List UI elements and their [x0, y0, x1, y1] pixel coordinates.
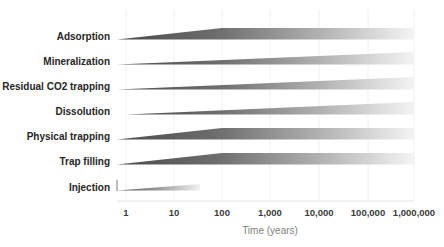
row-label-mineralization: Mineralization: [43, 56, 110, 67]
row-label-dissolution: Dissolution: [56, 106, 110, 117]
x-tick-1000: 1,000: [258, 207, 282, 218]
row-label-physical-trapping: Physical trapping: [27, 131, 110, 142]
bar-physical-trapping: [117, 128, 414, 140]
bar-injection: [117, 184, 200, 191]
row-label-residual-co2-trapping: Residual CO2 trapping: [2, 81, 110, 92]
bar-trap-filling: [117, 153, 414, 165]
x-tick-labels: 1 10 100 1,000 10,000 100,000 1,000,000: [123, 207, 435, 218]
x-tick-10: 10: [169, 207, 180, 218]
x-tick-1: 1: [123, 207, 129, 218]
trapping-mechanisms-chart: Adsorption Mineralization Residual CO2 t…: [0, 0, 444, 247]
x-tick-1000000: 1,000,000: [393, 207, 435, 218]
bars: [117, 28, 414, 191]
bar-residual-co2-trapping: [117, 77, 414, 90]
x-tick-10000: 10,000: [304, 207, 333, 218]
row-label-adsorption: Adsorption: [57, 31, 110, 42]
bar-mineralization: [117, 52, 414, 65]
x-tick-100000: 100,000: [351, 207, 385, 218]
row-labels: Adsorption Mineralization Residual CO2 t…: [2, 31, 110, 193]
row-label-trap-filling: Trap filling: [59, 156, 110, 167]
bar-adsorption: [117, 28, 414, 40]
x-tick-100: 100: [214, 207, 230, 218]
row-label-injection: Injection: [69, 182, 110, 193]
x-axis-title: Time (years): [242, 225, 298, 236]
